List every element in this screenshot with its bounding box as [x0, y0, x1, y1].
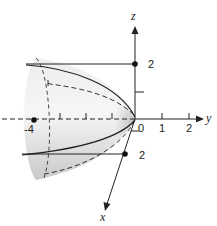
x-tick-label-2: 2 [139, 149, 145, 161]
y-axis-arrow-icon [196, 116, 204, 123]
point-x2 [122, 151, 128, 157]
z-axis-label: z [130, 9, 136, 23]
y-tick-label-2: 2 [186, 122, 192, 134]
y-tick-label-1: 1 [159, 122, 165, 134]
y-tick-label-neg4: -4 [24, 123, 34, 135]
y-axis-ticks [162, 113, 189, 119]
y-tick-label-0: 0 [138, 122, 144, 134]
z-tick-label-2: 2 [148, 58, 154, 70]
x-axis-label: x [99, 210, 106, 224]
z-axis-arrow-icon [132, 26, 139, 34]
y-axis-label: y [205, 111, 212, 125]
point-yneg4 [31, 117, 37, 123]
paraboloid-diagram: z y x 2 2 0 1 2 -4 [0, 0, 217, 226]
point-z2 [132, 61, 138, 67]
